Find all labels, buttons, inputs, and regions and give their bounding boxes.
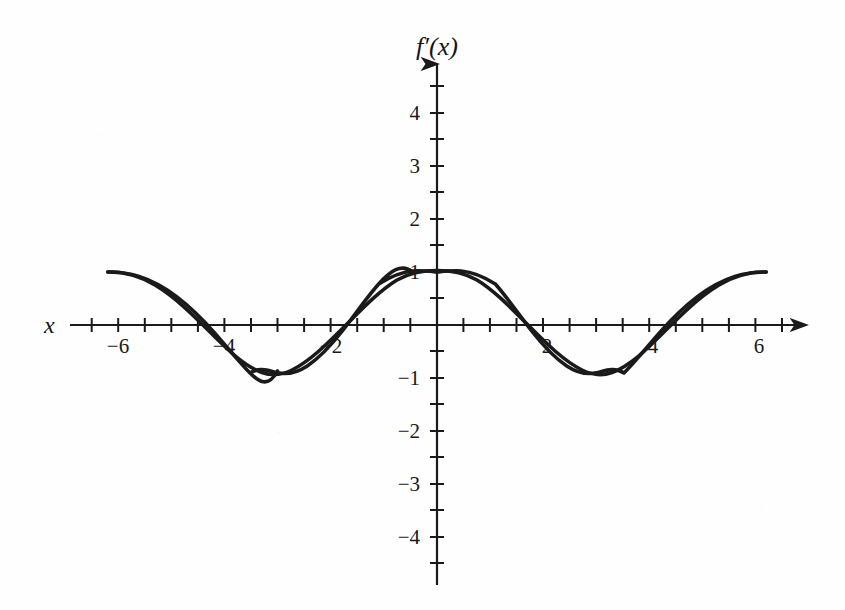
chart-title: f′(x): [416, 32, 458, 62]
y-tick-label-2: 2: [398, 207, 420, 232]
x-tick-label--6: −6: [107, 334, 129, 359]
x-tick-label-4: 4: [648, 334, 659, 359]
x-tick-label--2: −2: [320, 334, 342, 359]
x-axis-label: x: [44, 312, 55, 339]
y-tick-label--2: −2: [386, 419, 420, 444]
y-tick-label--1: −1: [386, 366, 420, 391]
y-tick-label-3: 3: [398, 154, 420, 179]
figure-canvas: f′(x) x −6 −4 −2 2 4 6 4 3 2 1 −1 −2 −3 …: [0, 0, 845, 610]
x-tick-label-6: 6: [754, 334, 765, 359]
y-tick-label-4: 4: [398, 101, 420, 126]
chart-plot-area: [0, 0, 845, 610]
y-tick-label--4: −4: [386, 525, 420, 550]
x-tick-label-2: 2: [542, 334, 553, 359]
y-tick-label--3: −3: [386, 472, 420, 497]
y-tick-label-1: 1: [398, 260, 420, 285]
x-tick-label--4: −4: [213, 334, 235, 359]
